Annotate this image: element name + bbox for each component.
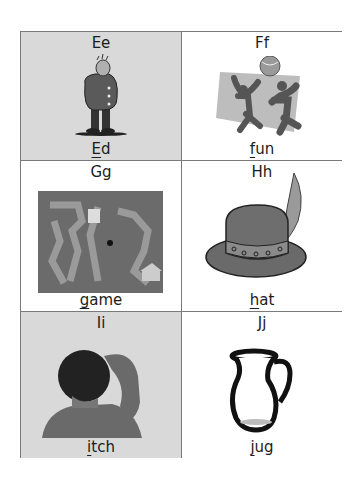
letter-pair: Jj <box>182 314 342 332</box>
person-scratching-head-icon <box>42 346 162 438</box>
word-label: hat <box>182 291 342 309</box>
word-label: fun <box>182 140 342 158</box>
card-ff: Ff fun <box>182 32 342 161</box>
card-jj: Jj jug <box>182 312 342 458</box>
phonics-card-table: Ee Ed Ff <box>20 31 342 458</box>
card-ee: Ee Ed <box>21 32 182 161</box>
card-hh: Hh hat <box>182 161 342 312</box>
hat-with-feather-icon <box>202 169 314 291</box>
letter-pair: Ii <box>21 314 181 332</box>
man-in-coat-icon <box>73 54 129 138</box>
jug-icon <box>226 348 298 434</box>
letter-pair: Ff <box>182 34 342 52</box>
card-gg: Gg game <box>21 161 182 312</box>
word-label: game <box>21 291 181 309</box>
children-playing-ball-icon <box>214 56 314 144</box>
card-ii: Ii itch <box>21 312 182 458</box>
letter-pair: Gg <box>21 163 181 181</box>
board-game-icon <box>38 191 163 293</box>
word-label: Ed <box>21 140 181 158</box>
word-label: jug <box>182 438 342 456</box>
letter-pair: Ee <box>21 34 181 52</box>
word-label: itch <box>21 438 181 456</box>
